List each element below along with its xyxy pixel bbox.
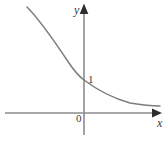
- y-axis-arrowhead-icon: [80, 4, 89, 15]
- exponential-graph-figure: y x 1 0: [0, 0, 168, 141]
- origin-label: 0: [76, 113, 82, 124]
- x-axis-label: x: [157, 117, 162, 129]
- y-intercept-label: 1: [88, 74, 94, 85]
- exponential-decay-curve: [27, 7, 160, 106]
- y-axis-label: y: [74, 4, 79, 16]
- graph-canvas: [0, 0, 168, 141]
